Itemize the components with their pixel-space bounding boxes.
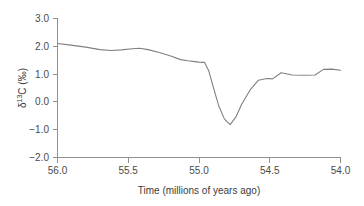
y-tick-label: 1.0 [35,69,49,80]
y-axis-title-superscript: 13 [16,95,23,103]
y-axis-tick-labels: 3.0 2.0 1.0 0.0 −1.0 −2.0 [29,13,49,163]
x-tick-label: 54.5 [260,165,280,176]
y-tick-label: 0.0 [35,96,49,107]
y-axis-ticks [53,19,58,158]
x-axis-ticks [58,158,341,164]
x-tick-label: 55.5 [118,165,138,176]
y-tick-label: −1.0 [29,124,49,135]
data-series-line [58,44,341,125]
x-tick-label: 55.0 [189,165,209,176]
y-axis-title: δ13C (‰) [16,68,28,108]
x-tick-label: 56.0 [48,165,68,176]
y-tick-label: −2.0 [29,152,49,163]
y-axis-title-element: C [17,87,28,94]
y-tick-label: 2.0 [35,41,49,52]
x-axis-tick-labels: 56.0 55.5 55.0 54.5 54.0 [48,165,351,176]
x-axis-title: Time (millions of years ago) [138,185,260,196]
y-axis-title-units: (‰) [17,68,28,85]
y-tick-label: 3.0 [35,13,49,24]
svg-text:δ13C (‰): δ13C (‰) [16,68,28,108]
line-chart: 3.0 2.0 1.0 0.0 −1.0 −2.0 56.0 55.5 55.0… [0,0,364,206]
chart-figure: 3.0 2.0 1.0 0.0 −1.0 −2.0 56.0 55.5 55.0… [0,0,364,206]
x-tick-label: 54.0 [331,165,351,176]
